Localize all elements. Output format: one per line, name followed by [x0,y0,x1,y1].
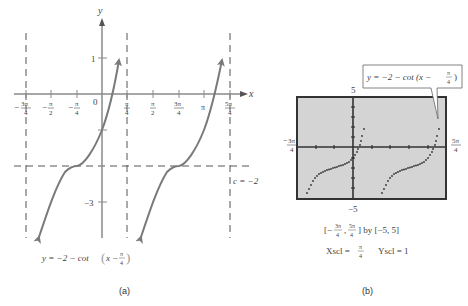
svg-text:3π: 3π [335,223,341,229]
equation-label-a: y = −2 − cot ( x − π 4 ) [41,250,130,266]
caption-b: (b) [362,286,373,296]
svg-text:π: π [151,100,155,108]
midline-label: c = −2 [233,176,259,186]
origin-label: 0 [93,97,98,107]
svg-text:4: 4 [125,109,129,117]
svg-text:5π: 5π [349,223,355,229]
svg-text:−: − [68,102,73,112]
svg-text:4: 4 [75,109,79,117]
svg-text:π: π [201,103,205,112]
svg-text:(: ( [101,250,105,265]
svg-text:3π: 3π [174,100,182,108]
figure-canvas: y x 0 1 −3 − 3π 4 − π 2 − π 4 π 4 π [0,0,468,306]
svg-text:4: 4 [447,79,450,85]
x-axis-label: x [248,88,254,99]
svg-text:2: 2 [49,109,53,117]
svg-text:4: 4 [454,146,458,154]
svg-text:x −: x − [105,253,118,263]
caption-a: (a) [119,286,130,296]
svg-text:−: − [42,102,47,112]
svg-text:3π: 3π [21,100,29,108]
panel-a-graph: y x 0 1 −3 − 3π 4 − π 2 − π 4 π 4 π [14,5,259,296]
xmin-label: − 3π 4 [283,136,296,154]
svg-text:[−: [− [324,225,332,235]
svg-text:4: 4 [24,109,28,117]
svg-text:): ) [454,72,457,82]
y-tick-1-label: 1 [91,54,96,64]
svg-text:4: 4 [359,253,362,259]
svg-text:π: π [49,100,53,108]
svg-text:3π: 3π [288,137,296,145]
svg-text:5π: 5π [452,137,460,145]
svg-text:π: π [447,70,450,76]
svg-text:4: 4 [177,109,181,117]
ymin-label: −5 [348,204,358,214]
ymax-label: 5 [351,85,356,95]
xmax-label: 5π 4 [451,137,461,154]
svg-text:y = −2 − cot (x −: y = −2 − cot (x − [366,72,431,82]
svg-text:4: 4 [336,232,339,238]
svg-text:π: π [120,251,123,257]
svg-text:5π: 5π [225,100,233,108]
svg-text:4: 4 [228,109,232,117]
svg-text:π: π [359,244,362,250]
curve-branch-1 [39,60,119,237]
x-tick-labels: − 3π 4 − π 2 − π 4 π 4 π 2 3π 4 [14,100,235,117]
svg-text:π: π [125,100,129,108]
svg-text:π: π [75,100,79,108]
window-range-text: [− 3π 4 , 5π 4 ] by [−5, 5] [324,223,399,238]
svg-text:Yscl = 1: Yscl = 1 [378,246,409,256]
svg-text:−: − [14,102,19,112]
svg-text:2: 2 [151,109,155,117]
svg-text:Xscl =: Xscl = [326,246,350,256]
svg-text:,: , [344,225,346,235]
panel-b-calculator: 5 −5 − 3π 4 5π 4 y = −2 − cot (x − π 4 )… [283,65,462,296]
scale-text: Xscl = π 4 Yscl = 1 [326,244,409,259]
svg-text:4: 4 [290,146,294,154]
svg-text:): ) [126,250,130,265]
svg-text:4: 4 [120,260,123,266]
svg-text:y = −2 − cot: y = −2 − cot [41,253,89,263]
y-tick-neg3-label: −3 [84,198,94,208]
y-axis-label: y [97,5,103,16]
svg-text:4: 4 [350,232,353,238]
svg-text:] by [−5, 5]: ] by [−5, 5] [358,225,399,235]
curve-branch-2 [141,60,222,237]
